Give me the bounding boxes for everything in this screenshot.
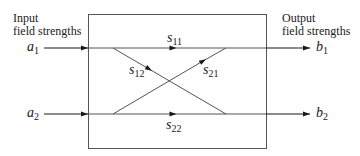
output-b1: b1 [316, 40, 328, 58]
input-label-line2: field strengths [13, 25, 81, 38]
input-a2: a2 [27, 106, 39, 124]
output-b2: b2 [316, 106, 328, 124]
input-a1: a1 [27, 40, 39, 58]
output-label-line2: field strengths [282, 25, 350, 38]
output-label: Output field strengths [282, 12, 350, 38]
label-s12: s12 [129, 63, 144, 81]
label-s21: s21 [203, 63, 218, 81]
input-label: Input field strengths [13, 12, 81, 38]
label-s22: s22 [166, 118, 181, 136]
label-s11: s11 [167, 31, 182, 49]
